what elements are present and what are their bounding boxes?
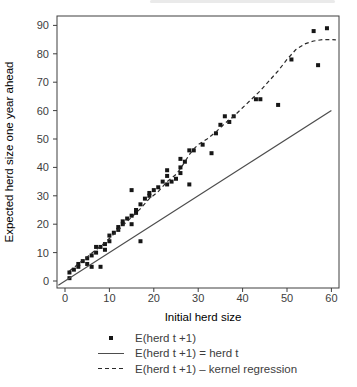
x-tick-label: 40 [236,292,248,304]
y-tick-label: 20 [37,218,49,230]
data-point [289,57,293,61]
data-point [67,270,71,274]
data-point [165,182,169,186]
data-point [152,188,156,192]
data-point [134,208,138,212]
data-point [258,97,262,101]
x-tick-label: 20 [148,292,160,304]
data-point [316,63,320,67]
x-tick-label: 30 [192,292,204,304]
data-point [107,234,111,238]
square-marker-icon [96,336,126,340]
dashed-line-swatch [98,368,125,369]
data-point [130,188,134,192]
data-point [165,174,169,178]
data-point [143,197,147,201]
y-tick-label: 50 [37,133,49,145]
solid-line-swatch [98,353,124,354]
legend-item-kernel-regression: E(herd t +1) – kernel regression [96,361,297,377]
data-point [165,168,169,172]
data-point [312,29,316,33]
scatter-plot: 01020304050600102030405060708090 Initial… [0,0,357,326]
legend-label: E(herd t +1) = herd t [135,347,239,359]
data-point [99,265,103,269]
y-tick-label: 60 [37,105,49,117]
legend: E(herd t +1) E(herd t +1) = herd t E(her… [96,330,297,377]
data-point [121,219,125,223]
data-point [138,202,142,206]
scan-artifact [150,0,335,3]
y-tick-label: 40 [37,161,49,173]
y-axis-title: Expected herd size one year ahead [3,62,15,243]
data-point [254,97,258,101]
legend-item-identity-line: E(herd t +1) = herd t [96,346,297,362]
data-point [72,268,76,272]
y-tick-label: 30 [37,190,49,202]
y-tick-label: 70 [37,76,49,88]
solid-line-icon [96,353,126,354]
data-point [94,251,98,255]
data-point [178,171,182,175]
data-point [156,185,160,189]
data-point [90,253,94,257]
x-tick-label: 0 [62,292,68,304]
data-point [325,26,329,30]
identity-line [58,111,331,286]
data-point [147,191,151,195]
data-point [170,180,174,184]
legend-label: E(herd t +1) – kernel regression [135,363,297,375]
data-point [187,148,191,152]
x-axis-title: Initial herd size [165,311,242,323]
legend-item-points: E(herd t +1) [96,330,297,346]
data-point [174,177,178,181]
x-tick-label: 10 [103,292,115,304]
data-point [103,248,107,252]
x-tick-label: 50 [281,292,293,304]
x-tick-label: 60 [325,292,337,304]
figure: 01020304050600102030405060708090 Initial… [0,0,357,387]
legend-label: E(herd t +1) [135,332,196,344]
data-point [130,222,134,226]
y-tick-label: 90 [37,19,49,31]
data-point [276,103,280,107]
data-point [138,239,142,243]
data-point [187,182,191,186]
dashed-line-icon [96,368,126,369]
square-marker-swatch [109,336,113,340]
data-point [210,151,214,155]
data-point [178,157,182,161]
data-point [223,114,227,118]
data-point [161,180,165,184]
y-tick-label: 10 [37,247,49,259]
y-tick-label: 0 [43,275,49,287]
y-tick-label: 80 [37,48,49,60]
